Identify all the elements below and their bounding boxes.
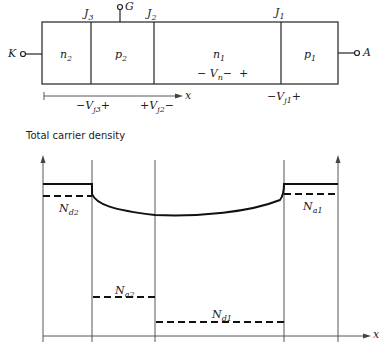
y-axis-label: Total carrier density [26, 130, 62, 142]
cathode-terminal-icon [21, 52, 26, 57]
device-x-axis [44, 92, 183, 100]
region-p2-label: p2 [115, 49, 127, 63]
device-body [42, 22, 338, 84]
thyristor-diagram [0, 0, 386, 355]
anode-label: A [363, 47, 371, 58]
chart-x-axis-label: x [373, 329, 379, 340]
carrier-density-chart [41, 155, 372, 342]
vj1-voltage-label: −Vj1+ [267, 91, 301, 105]
j3-label: JJ33 [84, 8, 94, 22]
device-x-axis-label: x [185, 90, 191, 101]
region-p1-label: p1 [304, 49, 316, 63]
total-carrier-density-curve [43, 184, 338, 215]
device-structure [21, 5, 360, 85]
j2-label: J2 [147, 8, 157, 22]
x-axis-arrow [363, 334, 371, 339]
cathode-label: K [8, 48, 16, 59]
vn-voltage-label: − Vn− + [197, 68, 248, 82]
region-n2-label: n2 [60, 49, 72, 63]
j1-label: J1 [275, 7, 285, 21]
na1-label: Na1 [303, 201, 322, 215]
vj2-voltage-label: +Vj2− [140, 100, 174, 114]
na2-label: Na2 [115, 285, 134, 299]
nd1-label: Nd1 [212, 309, 232, 323]
nd2-label: Nd2 [59, 203, 79, 217]
gate-terminal-icon [118, 5, 123, 10]
vj3-voltage-label: −Vj3+ [76, 100, 110, 114]
y-axis-arrow [41, 155, 46, 163]
gate-label: G [125, 1, 134, 12]
anode-terminal-icon [355, 51, 360, 56]
region-n1-label: n1 [213, 49, 225, 63]
